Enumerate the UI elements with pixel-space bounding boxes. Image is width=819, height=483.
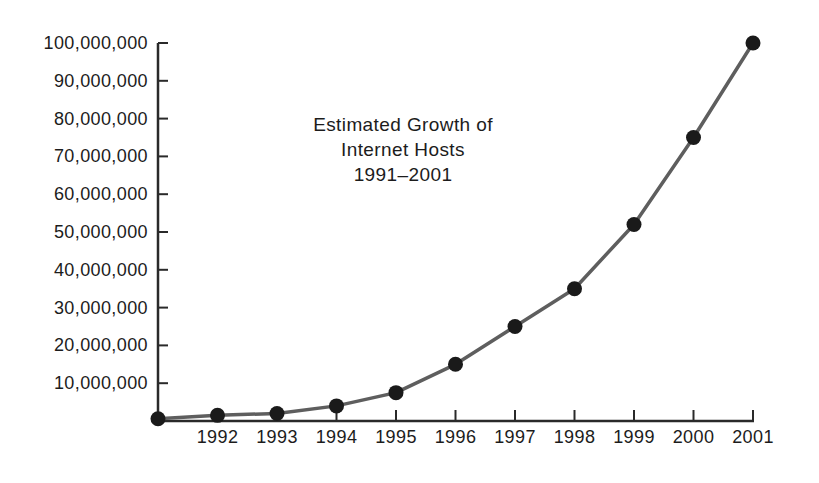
chart-title-line-2: Internet Hosts (258, 137, 548, 162)
data-point (270, 406, 285, 421)
y-tick-label: 70,000,000 (54, 146, 148, 166)
y-tick-label: 40,000,000 (54, 260, 148, 280)
data-point (746, 36, 761, 51)
data-point (151, 411, 166, 426)
x-tick-label: 1999 (613, 427, 655, 447)
data-point (567, 281, 582, 296)
chart-title-line-3: 1991–2001 (258, 162, 548, 187)
x-tick-label: 1992 (197, 427, 239, 447)
data-point (329, 398, 344, 413)
x-tick-label: 1997 (494, 427, 536, 447)
data-point (508, 319, 523, 334)
chart-title-line-1: Estimated Growth of (258, 112, 548, 137)
internet-hosts-growth-chart: 10,000,00020,000,00030,000,00040,000,000… (0, 0, 819, 483)
y-tick-label: 90,000,000 (54, 71, 148, 91)
chart-plot-area: 10,000,00020,000,00030,000,00040,000,000… (0, 0, 819, 483)
data-point (210, 408, 225, 423)
data-point (448, 357, 463, 372)
y-tick-label: 10,000,000 (54, 373, 148, 393)
chart-title: Estimated Growth of Internet Hosts 1991–… (258, 112, 548, 187)
data-point (627, 217, 642, 232)
x-tick-label: 1994 (316, 427, 358, 447)
y-tick-label: 100,000,000 (44, 33, 149, 53)
x-tick-label: 2001 (732, 427, 774, 447)
y-tick-label: 30,000,000 (54, 298, 148, 318)
y-tick-label: 20,000,000 (54, 335, 148, 355)
x-tick-label: 1993 (256, 427, 298, 447)
data-point (686, 130, 701, 145)
x-tick-label: 1995 (375, 427, 417, 447)
y-tick-label: 80,000,000 (54, 109, 148, 129)
y-tick-label: 50,000,000 (54, 222, 148, 242)
data-point (389, 385, 404, 400)
x-tick-label: 1996 (435, 427, 477, 447)
y-tick-label: 60,000,000 (54, 184, 148, 204)
x-tick-label: 1998 (554, 427, 596, 447)
x-tick-label: 2000 (673, 427, 715, 447)
